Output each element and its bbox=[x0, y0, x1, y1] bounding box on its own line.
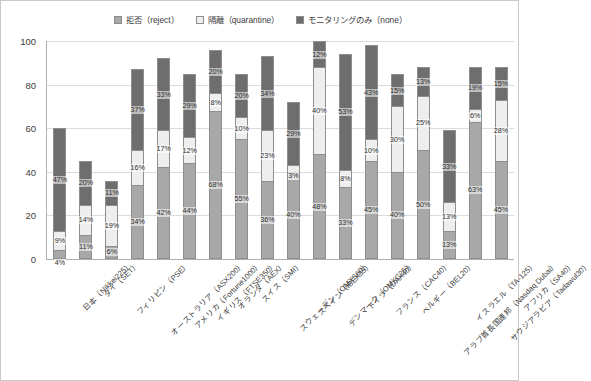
bar-segment-none: 20% bbox=[79, 161, 92, 205]
bar-group: 6%19%11% bbox=[105, 181, 118, 259]
bar-data-label: 3% bbox=[288, 172, 299, 180]
bar-data-label: 63% bbox=[467, 186, 482, 194]
bar-segment-reject: 34% bbox=[131, 185, 144, 259]
bar-group: 44%12%29% bbox=[183, 74, 196, 259]
bar-segment-reject: 42% bbox=[157, 167, 170, 259]
legend-label: 拒否（reject） bbox=[126, 15, 178, 25]
bar-segment-none: 33% bbox=[443, 130, 456, 202]
bar-data-label: 8% bbox=[340, 175, 351, 183]
y-tick-label: 80 bbox=[0, 79, 36, 90]
legend-label: 隔離（quarantine） bbox=[208, 15, 280, 25]
bar-group: 68%8%20% bbox=[209, 50, 222, 259]
bar-data-label: 15% bbox=[493, 80, 508, 88]
bar-segment-quarantine: 6% bbox=[469, 109, 482, 122]
bar-group: 63%6%19% bbox=[469, 67, 482, 259]
bar-segment-reject: 11% bbox=[79, 235, 92, 259]
bar-segment-none: 37% bbox=[131, 69, 144, 150]
bar-data-label: 40% bbox=[286, 211, 301, 219]
bar-data-label: 53% bbox=[338, 108, 353, 116]
bar-group: 11%14%20% bbox=[79, 161, 92, 259]
bar-segment-reject: 68% bbox=[209, 111, 222, 259]
bar-segment-quarantine: 16% bbox=[131, 150, 144, 185]
bar-data-label: 10% bbox=[234, 125, 249, 133]
bar-group: 13%13%33% bbox=[443, 130, 456, 259]
bar-group: 36%23%34% bbox=[261, 56, 274, 259]
bar-group: 33%8%53% bbox=[339, 54, 352, 259]
bar-data-label: 11% bbox=[78, 243, 93, 251]
legend-item-1: 隔離（quarantine） bbox=[196, 15, 280, 25]
bar-segment-none: 11% bbox=[105, 181, 118, 205]
legend-label: モニタリングのみ（none） bbox=[308, 15, 407, 25]
legend-swatch-icon bbox=[196, 16, 204, 24]
bar-data-label: 12% bbox=[182, 147, 197, 155]
bar-segment-none: 47% bbox=[53, 128, 66, 230]
bar-data-label: 45% bbox=[364, 206, 379, 214]
bar-segment-quarantine: 25% bbox=[417, 96, 430, 151]
bar-segment-none: 19% bbox=[469, 67, 482, 108]
bar-data-label: 34% bbox=[260, 90, 275, 98]
bar-data-label: 6% bbox=[106, 248, 117, 256]
y-axis-labels: 020406080100 bbox=[1, 41, 41, 259]
bar-data-label: 68% bbox=[208, 181, 223, 189]
bar-group: 34%16%37% bbox=[131, 69, 144, 259]
bar-data-label: 19% bbox=[104, 222, 119, 230]
y-tick-label: 60 bbox=[0, 123, 36, 134]
bar-segment-none: 43% bbox=[365, 45, 378, 139]
bar-segment-quarantine: 17% bbox=[157, 130, 170, 167]
y-tick-label: 20 bbox=[0, 210, 36, 221]
y-tick-label: 100 bbox=[0, 36, 36, 47]
x-axis-label: フィリピン（PSE） bbox=[135, 260, 192, 317]
bar-data-label: 23% bbox=[260, 152, 275, 160]
legend-item-0: 拒否（reject） bbox=[114, 15, 178, 25]
bar-group: 50%25%13% bbox=[417, 67, 430, 259]
bar-segment-quarantine: 30% bbox=[391, 106, 404, 171]
bar-data-label: 47% bbox=[52, 176, 67, 184]
bar-segment-none: 15% bbox=[495, 67, 508, 100]
bar-data-label: 36% bbox=[260, 216, 275, 224]
bar-segment-reject: 50% bbox=[417, 150, 430, 259]
bar-segment-quarantine: 10% bbox=[365, 139, 378, 161]
bar-data-label: 16% bbox=[130, 164, 145, 172]
bar-data-label: 33% bbox=[441, 163, 456, 171]
bar-segment-none: 20% bbox=[235, 74, 248, 118]
bar-data-label: 20% bbox=[78, 179, 93, 187]
bar-group: 48%40%12% bbox=[313, 41, 326, 259]
bar-segment-reject: 55% bbox=[235, 139, 248, 259]
bar-data-label: 19% bbox=[467, 84, 482, 92]
bar-group: 42%17%33% bbox=[157, 58, 170, 259]
bar-data-label: 9% bbox=[54, 237, 65, 245]
bar-segment-quarantine: 28% bbox=[495, 100, 508, 161]
bar-data-label: 43% bbox=[364, 89, 379, 97]
bar-segment-none: 15% bbox=[391, 74, 404, 107]
bar-segment-quarantine: 19% bbox=[105, 205, 118, 246]
bar-data-label: 13% bbox=[441, 213, 456, 221]
bar-segment-reject: 4% bbox=[53, 250, 66, 259]
bar-data-label: 20% bbox=[234, 92, 249, 100]
bar-data-label: 20% bbox=[208, 68, 223, 76]
bar-group: 4%9%47% bbox=[53, 128, 66, 259]
bar-data-label: 15% bbox=[390, 87, 405, 95]
plot-area: 4%9%47%11%14%20%6%19%11%34%16%37%42%17%3… bbox=[46, 41, 514, 260]
bar-segment-none: 34% bbox=[261, 56, 274, 130]
y-tick-label: 0 bbox=[0, 254, 36, 265]
bar-data-label: 29% bbox=[182, 102, 197, 110]
bar-segment-none: 33% bbox=[157, 58, 170, 130]
bar-group: 40%3%29% bbox=[287, 102, 300, 259]
bar-segment-none: 53% bbox=[339, 54, 352, 170]
legend-swatch-icon bbox=[296, 16, 304, 24]
chart-legend: 拒否（reject）隔離（quarantine）モニタリングのみ（none） bbox=[1, 15, 520, 25]
bar-data-label: 55% bbox=[234, 195, 249, 203]
bar-data-label: 13% bbox=[416, 78, 431, 86]
bar-data-label: 30% bbox=[390, 136, 405, 144]
bar-segment-quarantine: 14% bbox=[79, 205, 92, 236]
legend-swatch-icon bbox=[114, 16, 122, 24]
bar-data-label: 29% bbox=[286, 130, 301, 138]
bar-data-label: 14% bbox=[78, 216, 93, 224]
bar-data-label: 6% bbox=[469, 112, 480, 120]
bar-group: 55%10%20% bbox=[235, 74, 248, 259]
bar-segment-quarantine: 23% bbox=[261, 130, 274, 180]
bar-data-label: 40% bbox=[312, 107, 327, 115]
bar-data-label: 44% bbox=[182, 207, 197, 215]
bar-segment-quarantine: 10% bbox=[235, 117, 248, 139]
